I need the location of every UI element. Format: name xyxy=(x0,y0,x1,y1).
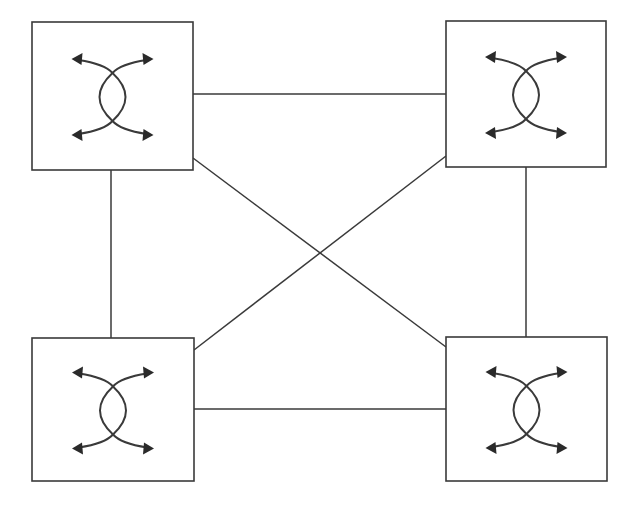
node-box xyxy=(446,337,607,481)
network-diagram xyxy=(0,0,639,506)
node-box xyxy=(32,338,194,481)
node-box xyxy=(32,22,193,170)
node-bottom-left xyxy=(32,338,194,481)
node-top-left xyxy=(32,22,193,170)
nodes xyxy=(32,21,607,481)
node-bottom-right xyxy=(446,337,607,481)
node-top-right xyxy=(446,21,606,167)
link-top-right-to-bottom-left xyxy=(194,156,446,350)
node-box xyxy=(446,21,606,167)
